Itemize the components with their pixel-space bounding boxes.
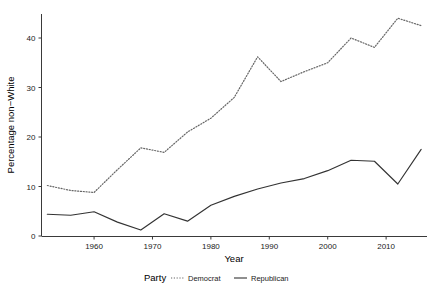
x-tick-label: 1970 — [144, 242, 162, 251]
y-axis-title: Percentage non−White — [5, 77, 16, 174]
x-tick-label: 1990 — [260, 242, 278, 251]
legend-label-republican: Republican — [251, 274, 289, 283]
y-tick-label: 20 — [27, 133, 36, 142]
x-tick-label: 2010 — [377, 242, 395, 251]
y-tick-label: 0 — [31, 232, 36, 241]
x-tick-label: 1980 — [202, 242, 220, 251]
x-tick-label: 2000 — [319, 242, 337, 251]
y-tick-label: 40 — [27, 34, 36, 43]
legend-title: Party — [144, 272, 166, 283]
y-tick-label: 10 — [27, 183, 36, 192]
chart-legend: Party Democrat Republican — [144, 272, 289, 283]
legend-label-democrat: Democrat — [188, 274, 221, 283]
x-axis-title: Year — [224, 253, 243, 264]
x-tick-label: 1960 — [85, 242, 103, 251]
chart-figure: 010203040 196019701980199020002010 Year … — [0, 0, 431, 292]
y-tick-label: 30 — [27, 84, 36, 93]
